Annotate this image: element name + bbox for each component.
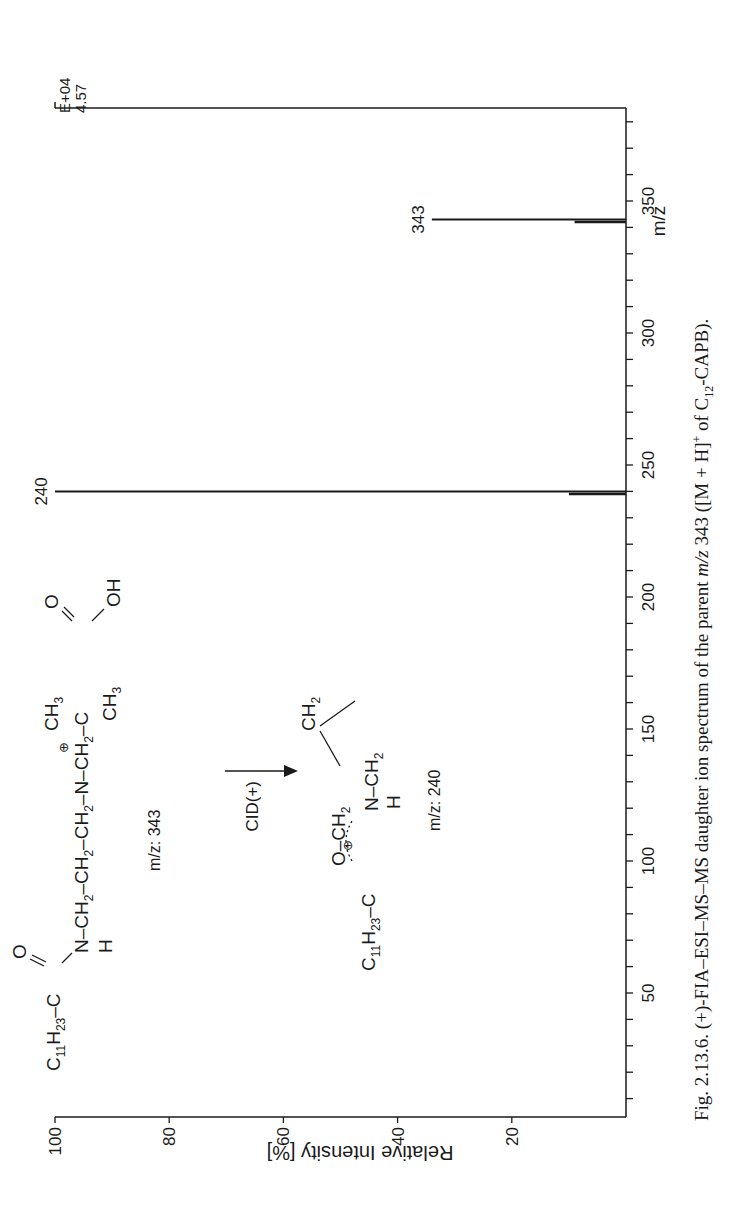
svg-text:CH3: CH3: [41, 697, 66, 731]
peak-label: 240: [32, 477, 51, 505]
svg-text:CH3: CH3: [99, 687, 124, 721]
svg-text:C11H23–C: C11H23–C: [358, 893, 383, 971]
scale-value-label: 4.57: [72, 84, 89, 113]
svg-text:CH2: CH2: [298, 697, 323, 731]
fragment-structure: C11H23–C ⊕ O–CH2 N–CH2 H CH2 m/z: 240: [298, 697, 443, 971]
svg-text:O: O: [9, 944, 30, 959]
svg-text:O–CH2: O–CH2: [328, 806, 353, 866]
svg-text:H: H: [383, 795, 404, 809]
svg-text:N–CH2–CH2–CH2–N–CH2–C: N–CH2–CH2–CH2–N–CH2–C: [71, 712, 96, 953]
x-tick-label: 200: [639, 583, 658, 611]
svg-text:H: H: [95, 939, 116, 953]
parent-structure: C11H23–C O N–CH2–CH2–CH2–N–CH2–C H CH3 ⊕…: [9, 579, 163, 1072]
x-tick-label: 150: [639, 715, 658, 743]
scale-exponent-label: E+04: [56, 78, 73, 113]
figure: 5010015020025030035020406080100 240343 R…: [0, 0, 745, 1221]
svg-text:⊕: ⊕: [56, 742, 71, 753]
x-tick-label: 100: [639, 847, 658, 875]
peaks: 240343: [32, 205, 626, 505]
x-tick-label: 250: [639, 451, 658, 479]
y-axis-title: Relative Intensity [%]: [267, 1142, 454, 1164]
axes: 5010015020025030035020406080100: [46, 102, 658, 1155]
svg-text:C11H23–C: C11H23–C: [43, 993, 68, 1071]
mass-spectrum-chart: 5010015020025030035020406080100 240343 R…: [0, 0, 745, 1221]
parent-mz-label: m/z: 343: [146, 810, 163, 871]
svg-text:O: O: [41, 594, 62, 609]
x-axis-title: m/z: [648, 206, 669, 237]
fragment-mz-label: m/z: 240: [426, 770, 443, 831]
cid-label: CID(+): [243, 781, 262, 832]
figure-caption: Fig. 2.13.6. (+)-FIA–ESI–MS–MS daughter …: [690, 21, 717, 1121]
cid-arrow: CID(+): [225, 765, 298, 832]
y-tick-label: 80: [160, 1127, 179, 1146]
peak-label: 343: [409, 205, 428, 233]
y-tick-label: 20: [503, 1127, 522, 1146]
svg-text:OH: OH: [103, 579, 124, 608]
y-tick-label: 100: [46, 1127, 65, 1155]
x-tick-label: 50: [639, 984, 658, 1003]
x-tick-label: 300: [639, 319, 658, 347]
